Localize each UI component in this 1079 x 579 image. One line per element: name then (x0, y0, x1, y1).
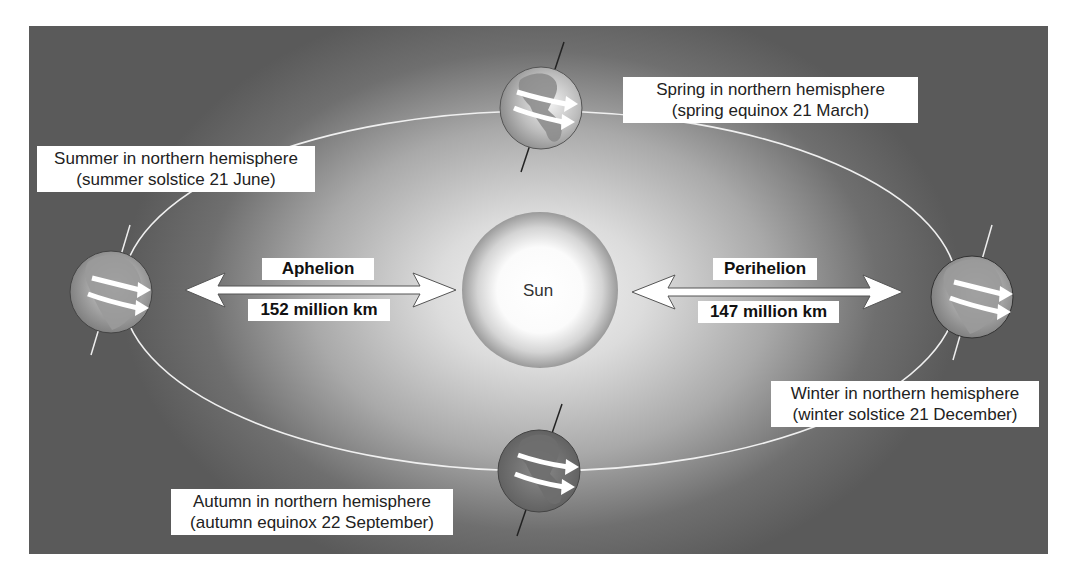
season-label-autumn: Autumn in northern hemisphere (autumn eq… (171, 489, 453, 535)
season-label-spring: Spring in northern hemisphere (spring eq… (623, 77, 918, 123)
season-label-summer: Summer in northern hemisphere (summer so… (37, 146, 315, 192)
season-label-spring-line2: (spring equinox 21 March) (631, 100, 910, 121)
season-label-autumn-line1: Autumn in northern hemisphere (179, 491, 445, 512)
perihelion-distance: 147 million km (698, 301, 839, 323)
earth-globe-icon-autumn (498, 404, 580, 536)
sun-label: Sun (523, 281, 553, 301)
earth-globe-icon-spring (500, 42, 582, 172)
aphelion-label: Aphelion (262, 258, 374, 280)
season-label-autumn-line2: (autumn equinox 22 September) (179, 512, 445, 533)
season-label-summer-line1: Summer in northern hemisphere (45, 148, 307, 169)
season-label-summer-line2: (summer solstice 21 June) (45, 169, 307, 190)
perihelion-label: Perihelion (713, 258, 817, 280)
earth-globe-icon-summer (70, 225, 152, 355)
season-label-winter-line1: Winter in northern hemisphere (779, 383, 1031, 404)
season-label-spring-line1: Spring in northern hemisphere (631, 79, 910, 100)
season-label-winter-line2: (winter solstice 21 December) (779, 404, 1031, 425)
season-label-winter: Winter in northern hemisphere (winter so… (771, 381, 1039, 427)
aphelion-distance: 152 million km (248, 299, 390, 321)
